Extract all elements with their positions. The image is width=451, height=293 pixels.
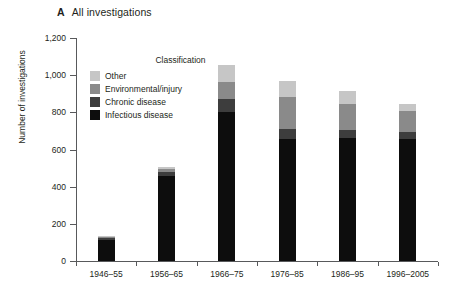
bar-segment [279,139,296,261]
bar-segment [339,91,356,104]
x-tick-label: 1996–2005 [373,269,443,279]
legend: Classification OtherEnvironmental/injury… [90,55,255,121]
page-title: AAll investigations [57,6,152,18]
x-tick [136,262,137,266]
legend-item-label: Other [105,71,126,81]
bar-1946-55[interactable] [98,236,115,261]
bar-1996-2005[interactable] [399,104,416,261]
x-tick [317,262,318,266]
legend-swatch-icon [90,71,100,81]
legend-item[interactable]: Chronic disease [90,95,255,108]
legend-item-label: Infectious disease [105,110,173,120]
bar-segment [399,104,416,111]
legend-swatch-icon [90,97,100,107]
y-tick-label: 0 [18,257,66,266]
legend-item[interactable]: Other [90,69,255,82]
legend-swatch-icon [90,110,100,120]
legend-item-label: Environmental/injury [105,84,182,94]
bar-segment [399,139,416,261]
x-tick [197,262,198,266]
panel-title-text: All investigations [72,6,152,18]
x-tick [257,262,258,266]
legend-item-label: Chronic disease [105,97,166,107]
y-axis-title-text: Number of investigations [17,0,27,197]
bar-segment [158,176,175,261]
legend-title: Classification [106,55,255,65]
bar-segment [399,111,416,131]
bar-1956-65[interactable] [158,167,175,261]
chart-figure: AAll investigations 02004006008001,0001,… [0,0,451,293]
bar-segment [218,112,235,261]
legend-items: OtherEnvironmental/injuryChronic disease… [90,69,255,121]
bar-segment [279,129,296,139]
legend-swatch-icon [90,84,100,94]
bar-segment [339,138,356,261]
x-tick [76,262,77,266]
panel-letter: A [57,6,65,18]
x-tick [438,262,439,266]
bar-1976-85[interactable] [279,81,296,261]
bar-segment [279,81,296,97]
legend-item[interactable]: Infectious disease [90,108,255,121]
bar-1986-95[interactable] [339,91,356,261]
bar-segment [339,104,356,130]
x-tick [378,262,379,266]
y-tick-label: 200 [18,220,66,229]
bar-segment [399,132,416,139]
bar-segment [339,130,356,138]
legend-item[interactable]: Environmental/injury [90,82,255,95]
bar-segment [279,97,296,130]
bar-segment [98,240,115,261]
